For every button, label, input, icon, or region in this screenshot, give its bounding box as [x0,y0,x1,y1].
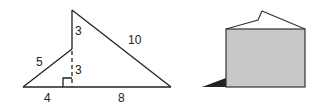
box-figure [202,11,305,87]
hypotenuse-right [72,10,171,87]
label-base-right: 8 [118,91,125,105]
right-angle-marker [63,78,72,87]
gray-box [226,29,305,87]
label-hypotenuse-left: 5 [36,55,43,69]
label-lower-vertical: 3 [75,63,82,77]
label-upper-vertical: 3 [75,24,82,38]
triangle-figure [23,10,171,87]
label-hypotenuse-right: 10 [128,33,142,47]
diagram-canvas: 3 10 5 3 4 8 [0,0,323,105]
shadow-triangle [202,78,226,87]
roof-outline [226,11,305,29]
hypotenuse-left [23,49,72,87]
label-base-left: 4 [44,91,51,105]
